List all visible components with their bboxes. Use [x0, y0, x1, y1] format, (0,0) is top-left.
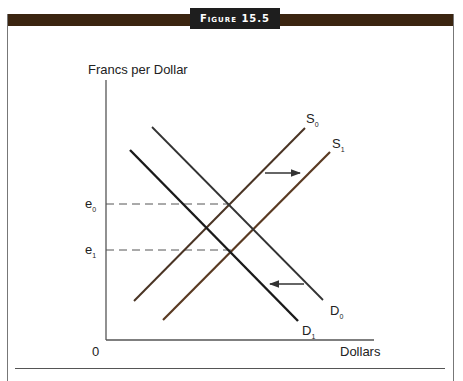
- supply-curve-s1: [163, 152, 330, 320]
- y-axis-label: Francs per Dollar: [88, 62, 188, 77]
- supply-curve-s0: [134, 128, 305, 301]
- supply-demand-plot: [0, 0, 463, 381]
- e1-label: e1: [85, 242, 96, 259]
- x-axis-label: Dollars: [340, 344, 380, 359]
- demand-curve-d0: [152, 127, 323, 300]
- e0-label: e0: [85, 196, 96, 213]
- d1-label: D1: [302, 323, 315, 340]
- d0-label: D0: [330, 303, 343, 320]
- caption-divider: [15, 368, 445, 369]
- origin-label: 0: [92, 344, 99, 359]
- demand-curve-d1: [130, 150, 298, 321]
- s1-label: S1: [332, 136, 345, 153]
- s0-label: S0: [306, 111, 319, 128]
